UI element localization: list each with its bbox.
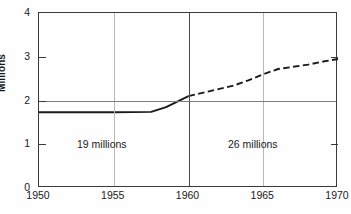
y-tick-right-3: [331, 57, 338, 58]
y-tick-label-3: 3: [0, 51, 36, 61]
x-tick-label-1955: 1955: [90, 190, 136, 201]
y-tick-3: [39, 57, 46, 58]
y-tick-right-1: [331, 144, 338, 145]
y-tick-label-1: 1: [0, 138, 36, 148]
y-tick-label-4: 4: [0, 7, 36, 17]
annotation-2: 26 millions: [219, 138, 287, 150]
annotation-1: 19 millions: [68, 138, 136, 150]
x-tick-label-1965: 1965: [239, 190, 285, 201]
x-tick-label-1960: 1960: [165, 190, 211, 201]
y-tick-label-2: 2: [0, 95, 36, 105]
vertical-gridline-1955: [114, 13, 115, 186]
x-tick-label-1950: 1950: [15, 190, 61, 201]
vertical-gridline-1965: [263, 13, 264, 186]
chart-figure: Millions 01234 19501955196019651970 19 m…: [0, 0, 351, 214]
vertical-gridline-1960: [189, 13, 190, 186]
plot-area: 19 millions26 millions: [38, 12, 337, 187]
x-tick-label-1970: 1970: [314, 190, 351, 201]
horizontal-gridline-2: [39, 101, 336, 102]
y-tick-2: [39, 101, 46, 102]
y-tick-1: [39, 144, 46, 145]
